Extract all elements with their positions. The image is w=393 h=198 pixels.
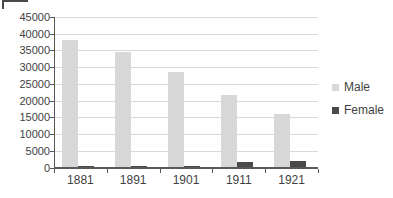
x-tick-label: 1911 xyxy=(213,173,265,187)
y-axis-line xyxy=(54,17,55,168)
bar-male-1901 xyxy=(168,72,184,167)
bar-female-1901 xyxy=(184,166,200,168)
bar-female-1881 xyxy=(78,166,94,167)
y-tick-label: 45000 xyxy=(0,10,50,24)
y-tick-label: 10000 xyxy=(0,127,50,141)
x-tick-mark xyxy=(54,169,55,173)
y-tick-label: 0 xyxy=(0,161,50,175)
gridline xyxy=(54,84,318,85)
x-tick-mark xyxy=(107,169,108,173)
legend-label-male: Male xyxy=(344,81,370,94)
gridline xyxy=(54,34,318,35)
gridline xyxy=(54,67,318,68)
bar-male-1921 xyxy=(274,114,290,168)
chart-legend: Male Female xyxy=(332,81,384,127)
x-tick-mark xyxy=(160,169,161,173)
y-tick-label: 20000 xyxy=(0,94,50,108)
female-series-swatch xyxy=(332,107,339,114)
legend-item-female: Female xyxy=(332,104,384,117)
bar-male-1891 xyxy=(115,52,131,167)
y-tick-label: 25000 xyxy=(0,77,50,91)
crop-corner-mark-left xyxy=(2,0,4,9)
y-tick-label: 30000 xyxy=(0,60,50,74)
bar-male-1911 xyxy=(221,95,237,168)
bar-female-1911 xyxy=(237,162,253,167)
bar-female-1891 xyxy=(131,166,147,167)
x-tick-label: 1901 xyxy=(160,173,212,187)
legend-label-female: Female xyxy=(344,104,384,117)
male-series-swatch xyxy=(332,84,339,91)
x-tick-mark xyxy=(212,169,213,173)
legend-item-male: Male xyxy=(332,81,384,94)
x-tick-label: 1921 xyxy=(266,173,318,187)
gridline xyxy=(54,17,318,18)
bar-male-1881 xyxy=(62,40,78,168)
bar-female-1921 xyxy=(290,161,306,167)
y-tick-label: 40000 xyxy=(0,27,50,41)
y-tick-label: 35000 xyxy=(0,43,50,57)
x-tick-mark xyxy=(318,169,319,173)
x-tick-label: 1881 xyxy=(54,173,106,187)
bar-chart-figure: 0500010000150002000025000300003500040000… xyxy=(0,0,393,198)
y-tick-label: 5000 xyxy=(0,144,50,158)
crop-corner-mark-top xyxy=(2,0,28,2)
x-tick-mark xyxy=(265,169,266,173)
gridline xyxy=(54,101,318,102)
gridline xyxy=(54,50,318,51)
x-tick-label: 1891 xyxy=(107,173,159,187)
y-tick-label: 15000 xyxy=(0,110,50,124)
